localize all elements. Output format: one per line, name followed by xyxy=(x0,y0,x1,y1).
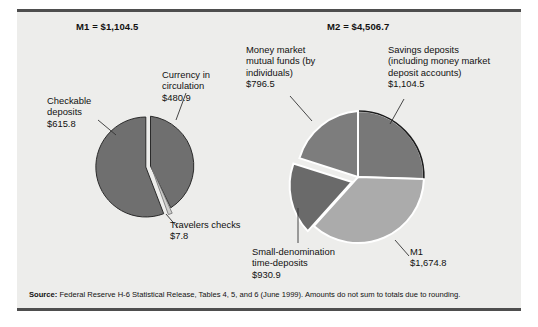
bottom-rule xyxy=(17,308,521,311)
label-m2-savings: Savings deposits (including money market… xyxy=(388,44,490,90)
chart-title-m1: M1 = $1,104.5 xyxy=(76,21,138,32)
source-label: Source: xyxy=(29,290,57,299)
source-text: Federal Reserve H-6 Statistical Release,… xyxy=(57,290,460,299)
label-m1-travelers: Travelers checks $7.8 xyxy=(170,219,241,242)
figure-root: M1 = $1,104.5 M2 = $4,506.7 xyxy=(0,0,538,327)
label-m1-checkable: Checkable deposits $615.8 xyxy=(47,95,91,129)
label-m2-mmmf: Money market mutual funds (by individual… xyxy=(246,44,315,90)
label-m1-currency: Currency in circulation $480.9 xyxy=(162,69,210,103)
top-rule xyxy=(17,9,521,12)
chart-title-m2: M2 = $4,506.7 xyxy=(327,21,389,32)
label-m2-m1: M1 $1,674.8 xyxy=(410,246,447,269)
label-m2-small: Small-denomination time-deposits $930.9 xyxy=(252,246,335,280)
source-note: Source: Federal Reserve H-6 Statistical … xyxy=(29,290,499,300)
